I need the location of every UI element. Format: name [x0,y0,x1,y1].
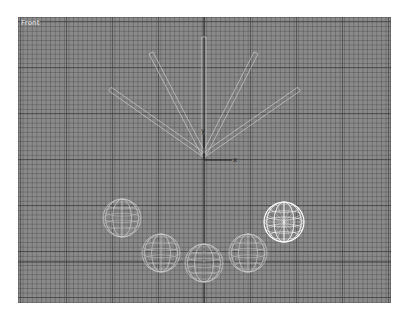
sphere-2[interactable] [142,234,180,272]
gizmo-x-label: x [233,156,237,164]
sphere-5[interactable] [264,202,304,242]
scene-canvas[interactable]: y x [18,17,391,303]
rod-1[interactable] [109,87,206,157]
sphere-3[interactable] [185,244,223,282]
front-viewport[interactable]: Front y x [18,17,391,303]
rod-2[interactable] [149,52,206,156]
rod-5[interactable] [203,87,301,157]
rod-4[interactable] [202,52,258,156]
gizmo-y-label: y [201,127,205,135]
sphere-4[interactable] [229,234,267,272]
sphere-1[interactable] [103,199,141,237]
